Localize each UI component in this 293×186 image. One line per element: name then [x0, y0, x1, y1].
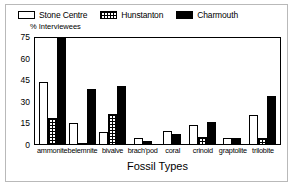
- solid-black-bar-icon: [176, 11, 193, 19]
- legend-entry-charmouth: Charmouth: [176, 9, 238, 21]
- bar-crinoid-stone-centre: [189, 125, 198, 144]
- bar-bivalve-stone-centre: [99, 132, 108, 144]
- bar-crinoid-hunstanton: [198, 137, 207, 144]
- bar-coral-charmouth: [172, 134, 181, 144]
- x-tick-label: belemnite: [67, 146, 97, 156]
- legend-label-hunstanton: Hunstanton: [121, 11, 163, 20]
- bar-graptolite-stone-centre: [223, 138, 232, 144]
- bar-group: [98, 38, 128, 144]
- bar-ammonite-hunstanton: [48, 118, 57, 144]
- x-tick-label: bivalve: [98, 146, 128, 156]
- y-axis-ticks: 01530456075: [0, 37, 34, 145]
- bar-belemnite-charmouth: [87, 89, 96, 144]
- bar-ammonite-stone-centre: [39, 82, 48, 144]
- chart-legend: Stone Centre Hunstanton Charmouth: [18, 9, 238, 21]
- bar-brachpod-charmouth: [143, 141, 152, 144]
- y-tick-label: 45: [21, 76, 30, 85]
- bar-trilobite-charmouth: [267, 96, 276, 144]
- bar-belemnite-stone-centre: [69, 123, 78, 144]
- fossil-types-bar-chart-figure: Stone Centre Hunstanton Charmouth % Inte…: [0, 0, 293, 186]
- y-axis-label: % Interviewees: [30, 22, 81, 31]
- x-axis-category-labels: ammonitebelemnitebivalvebrach'podcoralcr…: [34, 146, 281, 156]
- x-tick-label: ammonite: [37, 146, 67, 156]
- x-tick-label: trilobite: [248, 146, 278, 156]
- x-tick-label: crinoid: [188, 146, 218, 156]
- bar-belemnite-hunstanton: [78, 143, 87, 144]
- x-tick-label: graptolite: [218, 146, 248, 156]
- legend-entry-stone-centre: Stone Centre: [18, 9, 87, 21]
- bar-trilobite-hunstanton: [258, 138, 267, 144]
- bar-ammonite-charmouth: [57, 37, 66, 144]
- bar-group: [68, 38, 98, 144]
- bar-group: [128, 38, 158, 144]
- bar-trilobite-stone-centre: [249, 115, 258, 144]
- y-tick-label: 15: [21, 119, 30, 128]
- bar-coral-stone-centre: [163, 131, 172, 144]
- y-tick-label: 30: [21, 97, 30, 106]
- bar-group: [158, 38, 188, 144]
- bar-brachpod-stone-centre: [134, 138, 143, 144]
- x-tick-label: coral: [158, 146, 188, 156]
- bar-group: [38, 38, 68, 144]
- bar-group: [247, 38, 277, 144]
- bar-bivalve-hunstanton: [108, 114, 117, 144]
- plot-area: [34, 37, 281, 145]
- bar-crinoid-charmouth: [207, 122, 216, 144]
- legend-entry-hunstanton: Hunstanton: [100, 9, 163, 21]
- legend-label-stone-centre: Stone Centre: [39, 11, 87, 20]
- x-axis-title: Fossil Types: [34, 160, 281, 173]
- bar-bivalve-charmouth: [117, 86, 126, 144]
- x-tick-label: brach'pod: [128, 146, 158, 156]
- y-tick-label: 0: [25, 141, 30, 150]
- grid-hatched-bar-icon: [100, 11, 117, 19]
- bar-graptolite-charmouth: [232, 138, 241, 144]
- legend-label-charmouth: Charmouth: [197, 11, 238, 20]
- y-tick-label: 60: [21, 54, 30, 63]
- bar-group: [217, 38, 247, 144]
- y-tick-label: 75: [21, 33, 30, 42]
- open-white-bar-icon: [18, 11, 35, 19]
- bar-group: [187, 38, 217, 144]
